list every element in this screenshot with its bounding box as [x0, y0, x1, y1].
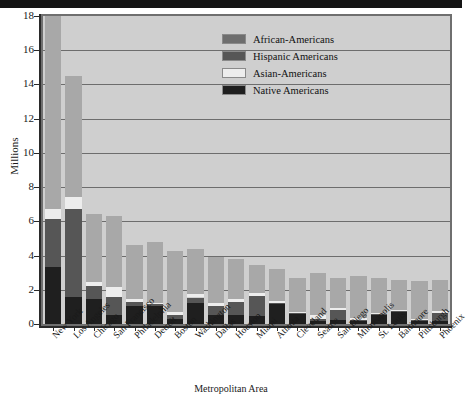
- gridline-y-4: [43, 256, 450, 257]
- bar-segment-hispanic-americans: [65, 209, 81, 297]
- legend-swatch-3: [222, 85, 246, 95]
- gridline-y-8: [43, 187, 450, 188]
- legend-swatch-0: [222, 34, 246, 44]
- legend-swatch-1: [222, 51, 246, 61]
- bar-segment-hispanic-americans: [187, 298, 203, 303]
- bar-segment-african-americans: [289, 278, 305, 312]
- y-tick-mark-2: [34, 290, 39, 291]
- y-tick-mark-4: [34, 256, 39, 257]
- bar-segment-hispanic-americans: [269, 303, 285, 305]
- y-tick-mark-10: [34, 153, 39, 154]
- legend-item-african-americans: African-Americans: [222, 32, 372, 46]
- bar-segment-african-americans: [147, 242, 163, 303]
- y-axis-title: Millions: [8, 111, 20, 201]
- bar-segment-asian-americans: [228, 299, 244, 302]
- bar-segment-african-americans: [45, 16, 61, 209]
- bar-segment-asian-americans: [289, 312, 305, 313]
- y-axis-line: [39, 14, 41, 328]
- bar-segment-asian-americans: [45, 209, 61, 218]
- legend-label-0: African-Americans: [253, 34, 334, 45]
- y-tick-label-18: 18: [4, 10, 34, 21]
- bar-boston: [167, 251, 183, 324]
- bar-segment-hispanic-americans: [289, 313, 305, 314]
- y-tick-label-2: 2: [4, 284, 34, 295]
- chart-legend: African-AmericansHispanic AmericansAsian…: [222, 32, 372, 100]
- y-tick-mark-14: [34, 84, 39, 85]
- y-tick-mark-8: [34, 187, 39, 188]
- y-tick-label-14: 14: [4, 78, 34, 89]
- bar-segment-african-americans: [228, 259, 244, 299]
- bar-segment-asian-americans: [65, 197, 81, 210]
- bar-segment-asian-americans: [330, 308, 346, 311]
- bar-segment-asian-americans: [249, 293, 265, 296]
- legend-label-1: Hispanic Americans: [253, 51, 338, 62]
- y-tick-mark-0: [34, 324, 39, 325]
- legend-item-native-americans: Native Americans: [222, 83, 372, 97]
- bar-segment-african-americans: [187, 249, 203, 294]
- y-tick-label-6: 6: [4, 215, 34, 226]
- bar-houston: [228, 259, 244, 324]
- bar-segment-asian-americans: [269, 301, 285, 303]
- x-axis-title: Metropolitan Area: [0, 383, 462, 394]
- y-tick-mark-18: [34, 16, 39, 17]
- gridline-y-6: [43, 221, 450, 222]
- bar-segment-african-americans: [208, 257, 224, 303]
- gridline-y-10: [43, 153, 450, 154]
- y-tick-mark-16: [34, 50, 39, 51]
- bar-segment-asian-americans: [187, 294, 203, 297]
- y-tick-label-0: 0: [4, 318, 34, 329]
- bar-segment-hispanic-americans: [86, 286, 102, 299]
- legend-item-asian-americans: Asian-Americans: [222, 66, 372, 80]
- bar-segment-asian-americans: [126, 299, 142, 302]
- bar-segment-african-americans: [106, 216, 122, 287]
- legend-label-2: Asian-Americans: [253, 68, 326, 79]
- bar-segment-african-americans: [126, 245, 142, 299]
- y-tick-mark-6: [34, 221, 39, 222]
- bar-segment-asian-americans: [86, 282, 102, 286]
- y-tick-mark-12: [34, 119, 39, 120]
- bar-segment-african-americans: [65, 76, 81, 197]
- bar-segment-african-americans: [249, 265, 265, 293]
- y-tick-label-4: 4: [4, 250, 34, 261]
- legend-swatch-2: [222, 68, 246, 78]
- bar-segment-african-americans: [86, 214, 102, 282]
- gridline-y-2: [43, 290, 450, 291]
- bar-los-angeles: [65, 76, 81, 324]
- bar-segment-african-americans: [330, 278, 346, 308]
- bar-segment-native-americans: [45, 267, 61, 324]
- legend-item-hispanic-americans: Hispanic Americans: [222, 49, 372, 63]
- bar-new-york: [45, 16, 61, 324]
- y-tick-label-16: 16: [4, 44, 34, 55]
- gridline-y-12: [43, 119, 450, 120]
- legend-label-3: Native Americans: [253, 85, 329, 96]
- bar-segment-hispanic-americans: [45, 219, 61, 267]
- bar-segment-asian-americans: [106, 287, 122, 297]
- bar-segment-african-americans: [269, 269, 285, 301]
- bar-washington: [187, 249, 203, 324]
